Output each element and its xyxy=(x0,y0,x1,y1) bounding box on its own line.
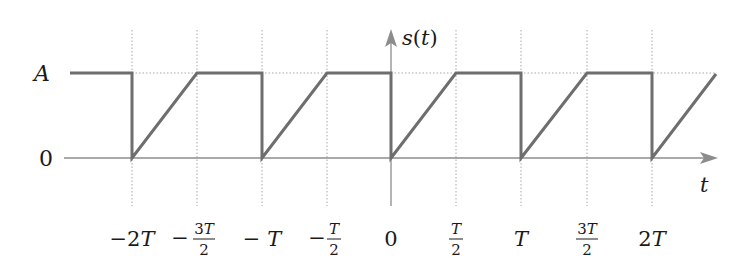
x-tick-t-half: T 2 xyxy=(449,220,463,259)
svg-text:3T: 3T xyxy=(194,220,215,238)
x-tick-minus-3t-half: − 3T 2 xyxy=(171,220,215,259)
y-axis-label: s(t) xyxy=(402,26,438,50)
svg-text:−: − xyxy=(308,226,326,250)
x-tick-labels: −2T − 3T 2 − T − T 2 0 T 2 T 3T xyxy=(110,220,668,259)
svg-text:2: 2 xyxy=(582,241,592,259)
svg-text:3T: 3T xyxy=(577,220,598,238)
x-tick-minus-t: − T xyxy=(243,227,283,251)
x-tick-minus-2t: −2T xyxy=(110,227,157,251)
y-tick-label-zero: 0 xyxy=(39,146,53,171)
x-tick-2t: 2T xyxy=(638,227,667,251)
svg-text:T: T xyxy=(451,220,462,238)
y-tick-label-a: A xyxy=(32,61,50,86)
svg-text:T: T xyxy=(329,220,340,238)
x-axis-label: t xyxy=(700,173,709,197)
svg-text:−: − xyxy=(171,226,189,250)
signal-diagram: s(t) t A 0 −2T − 3T 2 − T − T 2 0 T 2 xyxy=(0,0,753,269)
x-tick-minus-t-half: − T 2 xyxy=(308,220,341,259)
svg-text:2: 2 xyxy=(199,241,209,259)
svg-text:2: 2 xyxy=(451,241,461,259)
signal-waveform xyxy=(70,73,716,158)
x-tick-zero: 0 xyxy=(384,227,397,251)
svg-text:2: 2 xyxy=(329,241,339,259)
x-tick-3t-half: 3T 2 xyxy=(576,220,598,259)
x-tick-t: T xyxy=(514,227,530,251)
